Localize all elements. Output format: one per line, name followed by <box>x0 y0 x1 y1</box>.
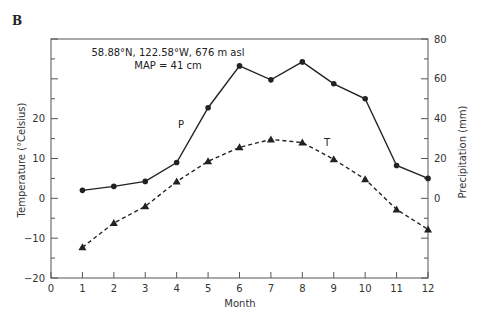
y-left-axis-title: Temperature (°Celsius) <box>16 103 27 219</box>
x-tick-label: 0 <box>48 283 54 294</box>
y-right-tick-label: 20 <box>434 153 447 164</box>
circle-marker-icon <box>237 63 243 69</box>
triangle-marker-icon <box>110 219 118 226</box>
x-tick-label: 10 <box>359 283 372 294</box>
circle-marker-icon <box>300 59 306 65</box>
x-tick-label: 11 <box>390 283 403 294</box>
x-axis-title: Month <box>224 298 255 309</box>
x-tick-label: 12 <box>422 283 435 294</box>
circle-marker-icon <box>174 160 180 166</box>
triangle-marker-icon <box>393 205 401 212</box>
y-left-tick-label: −20 <box>24 273 45 284</box>
circle-marker-icon <box>425 176 431 182</box>
x-tick-label: 4 <box>173 283 179 294</box>
circle-marker-icon <box>268 77 274 83</box>
climate-chart: B 0123456789101112−20−1001020020406080 5… <box>0 0 481 324</box>
triangle-marker-icon <box>78 243 86 250</box>
precip-series-label: P <box>178 119 184 130</box>
map-annotation: MAP = 41 cm <box>134 60 201 71</box>
triangle-marker-icon <box>424 225 432 232</box>
circle-marker-icon <box>80 188 86 194</box>
x-tick-label: 6 <box>236 283 242 294</box>
y-right-tick-label: 80 <box>434 34 447 45</box>
data-series <box>78 59 432 250</box>
x-tick-label: 7 <box>268 283 274 294</box>
triangle-marker-icon <box>361 175 369 182</box>
x-tick-label: 9 <box>331 283 337 294</box>
triangle-marker-icon <box>173 178 181 185</box>
temp-series-label: T <box>323 137 331 148</box>
circle-marker-icon <box>394 163 400 169</box>
plot-border <box>51 39 428 278</box>
circle-marker-icon <box>142 179 148 185</box>
y-right-axis-title: Precipitation (mm) <box>457 105 468 198</box>
x-tick-label: 5 <box>205 283 211 294</box>
y-left-tick-label: 10 <box>32 153 45 164</box>
x-tick-label: 8 <box>299 283 305 294</box>
x-tick-label: 3 <box>142 283 148 294</box>
precipitation-line <box>82 62 428 190</box>
y-right-tick-label: 40 <box>434 113 447 124</box>
y-right-tick-label: 0 <box>434 193 440 204</box>
circle-marker-icon <box>205 105 211 111</box>
temperature-line <box>82 139 428 247</box>
y-right-tick-label: 60 <box>434 73 447 84</box>
y-left-tick-label: 20 <box>32 113 45 124</box>
x-tick-label: 1 <box>79 283 85 294</box>
panel-label: B <box>12 14 22 28</box>
triangle-marker-icon <box>267 135 275 142</box>
x-tick-label: 2 <box>111 283 117 294</box>
circle-marker-icon <box>331 81 337 87</box>
circle-marker-icon <box>362 96 368 102</box>
y-left-tick-label: −10 <box>24 233 45 244</box>
plot-frame <box>51 39 428 278</box>
site-annotation: 58.88°N, 122.58°W, 676 m asl <box>91 47 244 58</box>
circle-marker-icon <box>111 184 117 190</box>
y-left-tick-label: 0 <box>39 193 45 204</box>
triangle-marker-icon <box>330 155 338 162</box>
